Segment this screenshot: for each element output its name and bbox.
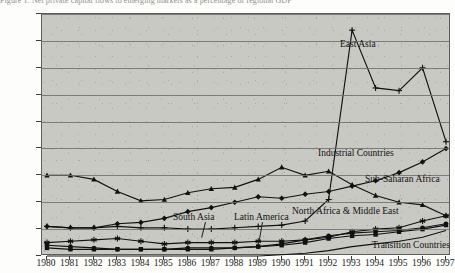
y-axis-tick <box>36 40 41 41</box>
series-label-north-africa-middle-east: North Africa & Middle East <box>292 206 399 216</box>
x-axis-tick <box>163 256 164 260</box>
x-axis-tick <box>328 256 329 260</box>
y-axis-tick <box>36 201 41 202</box>
x-axis-tick <box>257 256 258 260</box>
x-axis-tick <box>69 256 70 260</box>
gridline <box>42 41 449 42</box>
figure-caption: Figure 1. Net private capital flows to e… <box>0 0 453 5</box>
series-label-east-asia: East Asia <box>340 39 376 49</box>
x-axis-tick <box>281 256 282 260</box>
x-axis-tick <box>46 256 47 260</box>
x-axis-tick <box>398 256 399 260</box>
x-axis-tick <box>210 256 211 260</box>
x-axis-tick <box>93 256 94 260</box>
y-axis-tick <box>36 228 41 229</box>
gridline <box>42 95 449 96</box>
x-axis-tick <box>445 256 446 260</box>
x-axis-tick <box>140 256 141 260</box>
series-label-latin-america: Latin America <box>234 212 289 222</box>
gridline <box>42 68 449 69</box>
x-axis-tick <box>422 256 423 260</box>
series-label-transition-countries: Transition Countries <box>372 240 450 250</box>
series-label-industrial-countries: Industrial Countries <box>318 148 394 158</box>
x-axis-tick <box>375 256 376 260</box>
gridline <box>42 14 449 15</box>
y-axis-tick <box>36 13 41 14</box>
gridline <box>42 229 449 230</box>
y-axis-tick <box>36 121 41 122</box>
gridline <box>42 202 449 203</box>
y-axis-tick <box>36 255 41 256</box>
y-axis-tick <box>36 94 41 95</box>
x-axis-tick <box>234 256 235 260</box>
y-axis-tick <box>36 67 41 68</box>
x-axis-tick <box>187 256 188 260</box>
y-axis-tick <box>36 147 41 148</box>
x-axis-tick <box>351 256 352 260</box>
y-axis-tick <box>36 174 41 175</box>
series-label-sub-saharan-africa: Sub-Saharan Africa <box>365 174 440 184</box>
gridline <box>42 122 449 123</box>
x-axis-tick <box>304 256 305 260</box>
series-label-south-asia: South Asia <box>173 212 214 222</box>
x-axis-tick <box>116 256 117 260</box>
